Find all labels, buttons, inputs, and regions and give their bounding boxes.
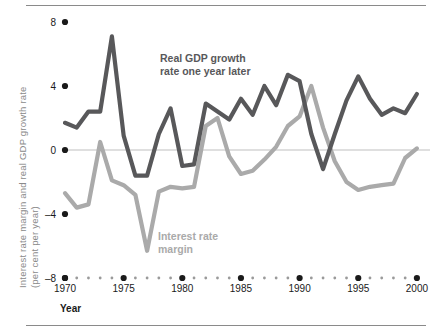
y-tick-label: –4 [45,209,57,220]
x-axis-ticks: 1970197519801985199019952000 [54,275,429,294]
x-minor-tick-dot [193,277,196,280]
x-tick-label: 1985 [230,283,253,294]
y-axis-ticks: 840–4–8 [45,17,68,284]
y-tick-label: –8 [45,273,57,284]
x-minor-tick-dot [345,277,348,280]
margin-annotation: Interest rate margin [158,230,218,255]
x-tick-dot [414,275,420,281]
x-minor-tick-dot [146,277,149,280]
line-chart: 840–4–8 1970197519801985199019952000 Int… [0,0,448,334]
x-minor-tick-dot [404,277,407,280]
x-minor-tick-dot [380,277,383,280]
x-tick-label: 1995 [347,283,370,294]
x-minor-tick-dot [275,277,278,280]
x-minor-tick-dot [216,277,219,280]
gdp-annotation: Real GDP growth rate one year later [160,52,250,77]
bottom-rule [26,325,426,326]
y-tick-dot [62,83,68,89]
x-minor-tick-dot [333,277,336,280]
y-axis-title-line2: (per cent per year) [29,206,40,288]
y-tick-dot [62,19,68,25]
x-tick-label: 1980 [171,283,194,294]
x-minor-tick-dot [157,277,160,280]
x-minor-tick-dot [228,277,231,280]
x-minor-tick-dot [251,277,254,280]
y-tick-label: 8 [50,17,56,28]
x-minor-tick-dot [369,277,372,280]
x-axis-title: Year [60,303,81,314]
gdp-annotation-line2: rate one year later [160,65,250,77]
series-line-interest-rate-margin [65,86,417,251]
chart-figure: 840–4–8 1970197519801985199019952000 Int… [0,0,448,334]
x-minor-tick-dot [99,277,102,280]
y-axis-title-line1: Interest rate margin and real GDP growth… [17,86,28,288]
x-minor-tick-dot [263,277,266,280]
x-tick-label: 1975 [113,283,136,294]
x-minor-tick-dot [87,277,90,280]
x-tick-dot [355,275,361,281]
x-minor-tick-dot [322,277,325,280]
top-rule [26,5,426,6]
x-minor-tick-dot [111,277,114,280]
x-tick-dot [238,275,244,281]
x-minor-tick-dot [169,277,172,280]
y-tick-label: 4 [50,81,56,92]
x-minor-tick-dot [310,277,313,280]
margin-annotation-line1: Interest rate [158,230,218,242]
y-axis-title: Interest rate margin and real GDP growth… [17,86,40,288]
y-tick-label: 0 [50,145,56,156]
gdp-annotation-line1: Real GDP growth [160,52,246,64]
x-minor-tick-dot [286,277,289,280]
margin-annotation-line2: margin [158,243,193,255]
x-tick-label: 2000 [406,283,429,294]
x-tick-dot [121,275,127,281]
x-minor-tick-dot [204,277,207,280]
x-tick-label: 1970 [54,283,77,294]
x-minor-tick-dot [75,277,78,280]
y-tick-dot [62,147,68,153]
x-tick-dot [297,275,303,281]
y-tick-dot [62,211,68,217]
x-tick-label: 1990 [288,283,311,294]
x-minor-tick-dot [392,277,395,280]
x-tick-dot [62,275,68,281]
x-tick-dot [179,275,185,281]
x-minor-tick-dot [134,277,137,280]
